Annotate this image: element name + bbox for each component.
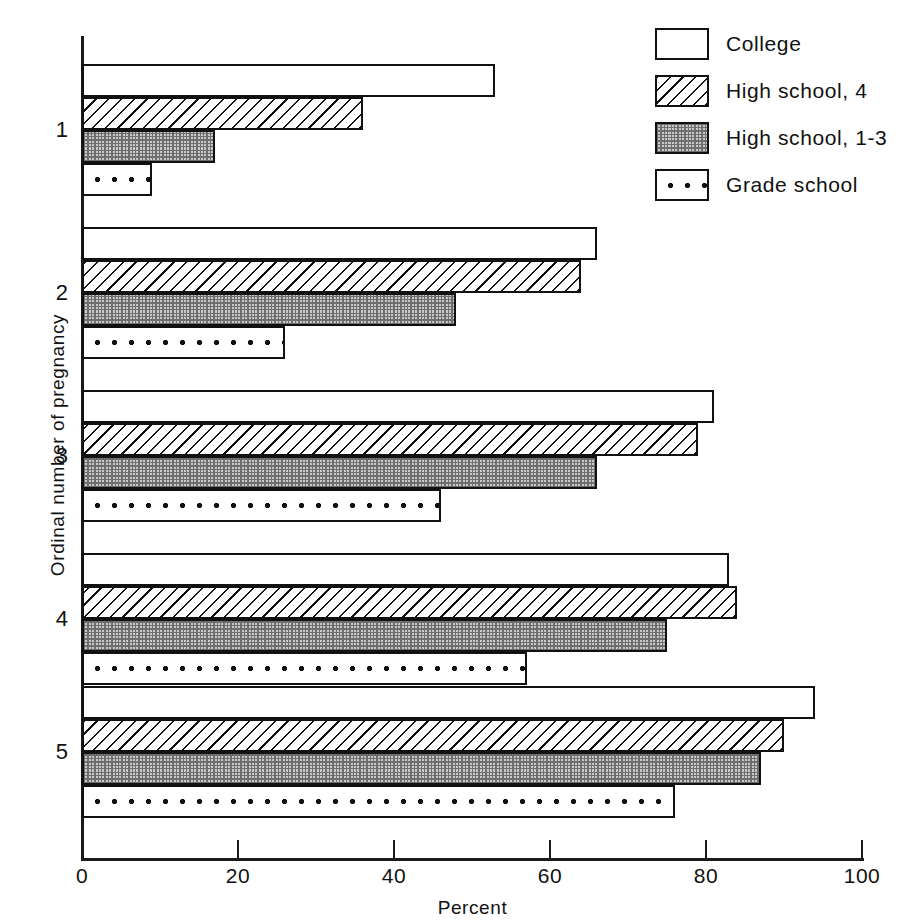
bar-group-3: 3 [82,390,862,522]
x-tick-100 [861,840,863,859]
open-swatch [655,28,709,60]
bar-grade-group-5 [82,785,675,818]
bar-hs13-group-1 [82,130,215,163]
legend-label-college: College [726,32,801,56]
bar-hs13-group-4 [82,619,667,652]
x-tick-label-20: 20 [226,864,250,888]
x-tick-label-0: 0 [76,864,88,888]
legend-item-grade: Grade school [655,161,905,208]
bar-hs4-group-4 [82,586,737,619]
bar-hs13-group-5 [82,752,761,785]
bar-chart-figure: 020406080100 Percent Ordinal number of p… [0,0,905,923]
x-tick-label-60: 60 [538,864,562,888]
bar-college-group-2 [82,227,597,260]
x-tick-label-100: 100 [844,864,881,888]
dotted-swatch [655,169,709,201]
x-axis-title: Percent [0,897,905,919]
legend-label-hs13: High school, 1-3 [726,126,887,150]
bar-hs13-group-2 [82,293,456,326]
bar-college-group-1 [82,64,495,97]
y-tick-label-1: 1 [56,117,68,143]
y-tick-label-3: 3 [56,443,68,469]
bar-hs4-group-3 [82,423,698,456]
x-tick-label-40: 40 [382,864,406,888]
bar-grade-group-1 [82,163,152,196]
x-tick-20 [237,840,239,859]
legend-label-hs4: High school, 4 [726,79,867,103]
x-tick-label-80: 80 [694,864,718,888]
diagonal-hatch-swatch [655,75,709,107]
bar-hs4-group-2 [82,260,581,293]
legend-item-hs4: High school, 4 [655,67,905,114]
legend-item-hs13: High school, 1-3 [655,114,905,161]
bar-grade-group-3 [82,489,441,522]
x-tick-60 [549,840,551,859]
bar-college-group-3 [82,390,714,423]
bar-hs4-group-1 [82,97,363,130]
crosshatch-swatch [655,122,709,154]
x-tick-0 [81,840,83,859]
bar-group-2: 2 [82,227,862,359]
legend-item-college: College [655,20,905,67]
y-tick-label-4: 4 [56,606,68,632]
bar-group-5: 5 [82,686,862,818]
y-tick-label-5: 5 [56,739,68,765]
bar-college-group-4 [82,553,729,586]
bar-hs13-group-3 [82,456,597,489]
bar-grade-group-4 [82,652,527,685]
legend: CollegeHigh school, 4High school, 1-3Gra… [655,20,905,208]
bar-college-group-5 [82,686,815,719]
y-tick-label-2: 2 [56,280,68,306]
bar-grade-group-2 [82,326,285,359]
x-tick-40 [393,840,395,859]
bar-group-4: 4 [82,553,862,685]
x-tick-80 [705,840,707,859]
legend-label-grade: Grade school [726,173,858,197]
x-axis-line [81,858,864,861]
x-axis-title-label: Percent [438,897,508,919]
bar-hs4-group-5 [82,719,784,752]
